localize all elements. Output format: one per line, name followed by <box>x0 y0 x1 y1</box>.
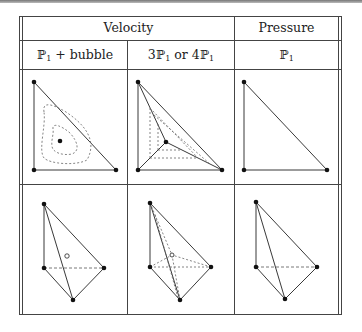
header-pressure: Pressure <box>235 20 338 36</box>
bubble-node-icon <box>65 254 69 258</box>
label-sub: 1 <box>209 54 214 63</box>
header-3p1-4p1: 3ℙ1 or 4ℙ1 <box>128 47 234 67</box>
tetrahedron-p1 <box>254 200 320 302</box>
header-velocity: Velocity <box>23 20 234 36</box>
label-sub: 1 <box>289 54 294 63</box>
triangle-p1-bubble <box>32 80 119 173</box>
label-part: or 4ℙ <box>170 47 209 62</box>
label-part: ℙ <box>37 47 46 62</box>
label-part: 3ℙ <box>148 47 165 62</box>
triangle-3p1-4p1 <box>136 80 225 173</box>
interior-node-icon <box>170 253 174 257</box>
tetrahedron-p1-bubble <box>42 202 107 303</box>
label-part: ℙ <box>279 47 288 62</box>
header-p1-bubble: ℙ1 + bubble <box>23 47 127 67</box>
tetrahedron-3p1-4p1 <box>148 201 214 303</box>
label-part: + bubble <box>51 47 113 62</box>
triangle-p1 <box>242 80 330 173</box>
header-p1: ℙ1 <box>235 47 338 67</box>
